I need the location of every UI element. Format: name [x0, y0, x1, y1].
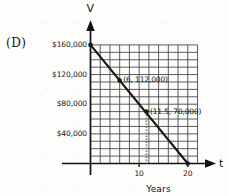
y-axis-name-label: V — [87, 2, 95, 15]
y-tick-label-160000: $160,000 — [43, 40, 87, 49]
x-tick-label-20: 20 — [174, 169, 202, 178]
y-tick-label-120000: $120,000 — [43, 70, 87, 79]
point-annotation-2: (11.5, 70,000) — [150, 107, 201, 116]
x-tick-label-10: 10 — [125, 169, 153, 178]
depreciation-chart-figure: (D) $160,000 $120,000 $80,000 $40,000 10… — [0, 0, 229, 196]
y-tick-label-40000: $40,000 — [43, 129, 87, 138]
chart-plot-area — [0, 0, 229, 196]
grid-lines — [91, 45, 198, 164]
x-axis-name-label: t — [219, 157, 223, 170]
x-axis-title-years: Years — [109, 184, 209, 194]
y-tick-label-80000: $80,000 — [43, 99, 87, 108]
point-annotation-1: (6, 112,000) — [123, 75, 168, 84]
